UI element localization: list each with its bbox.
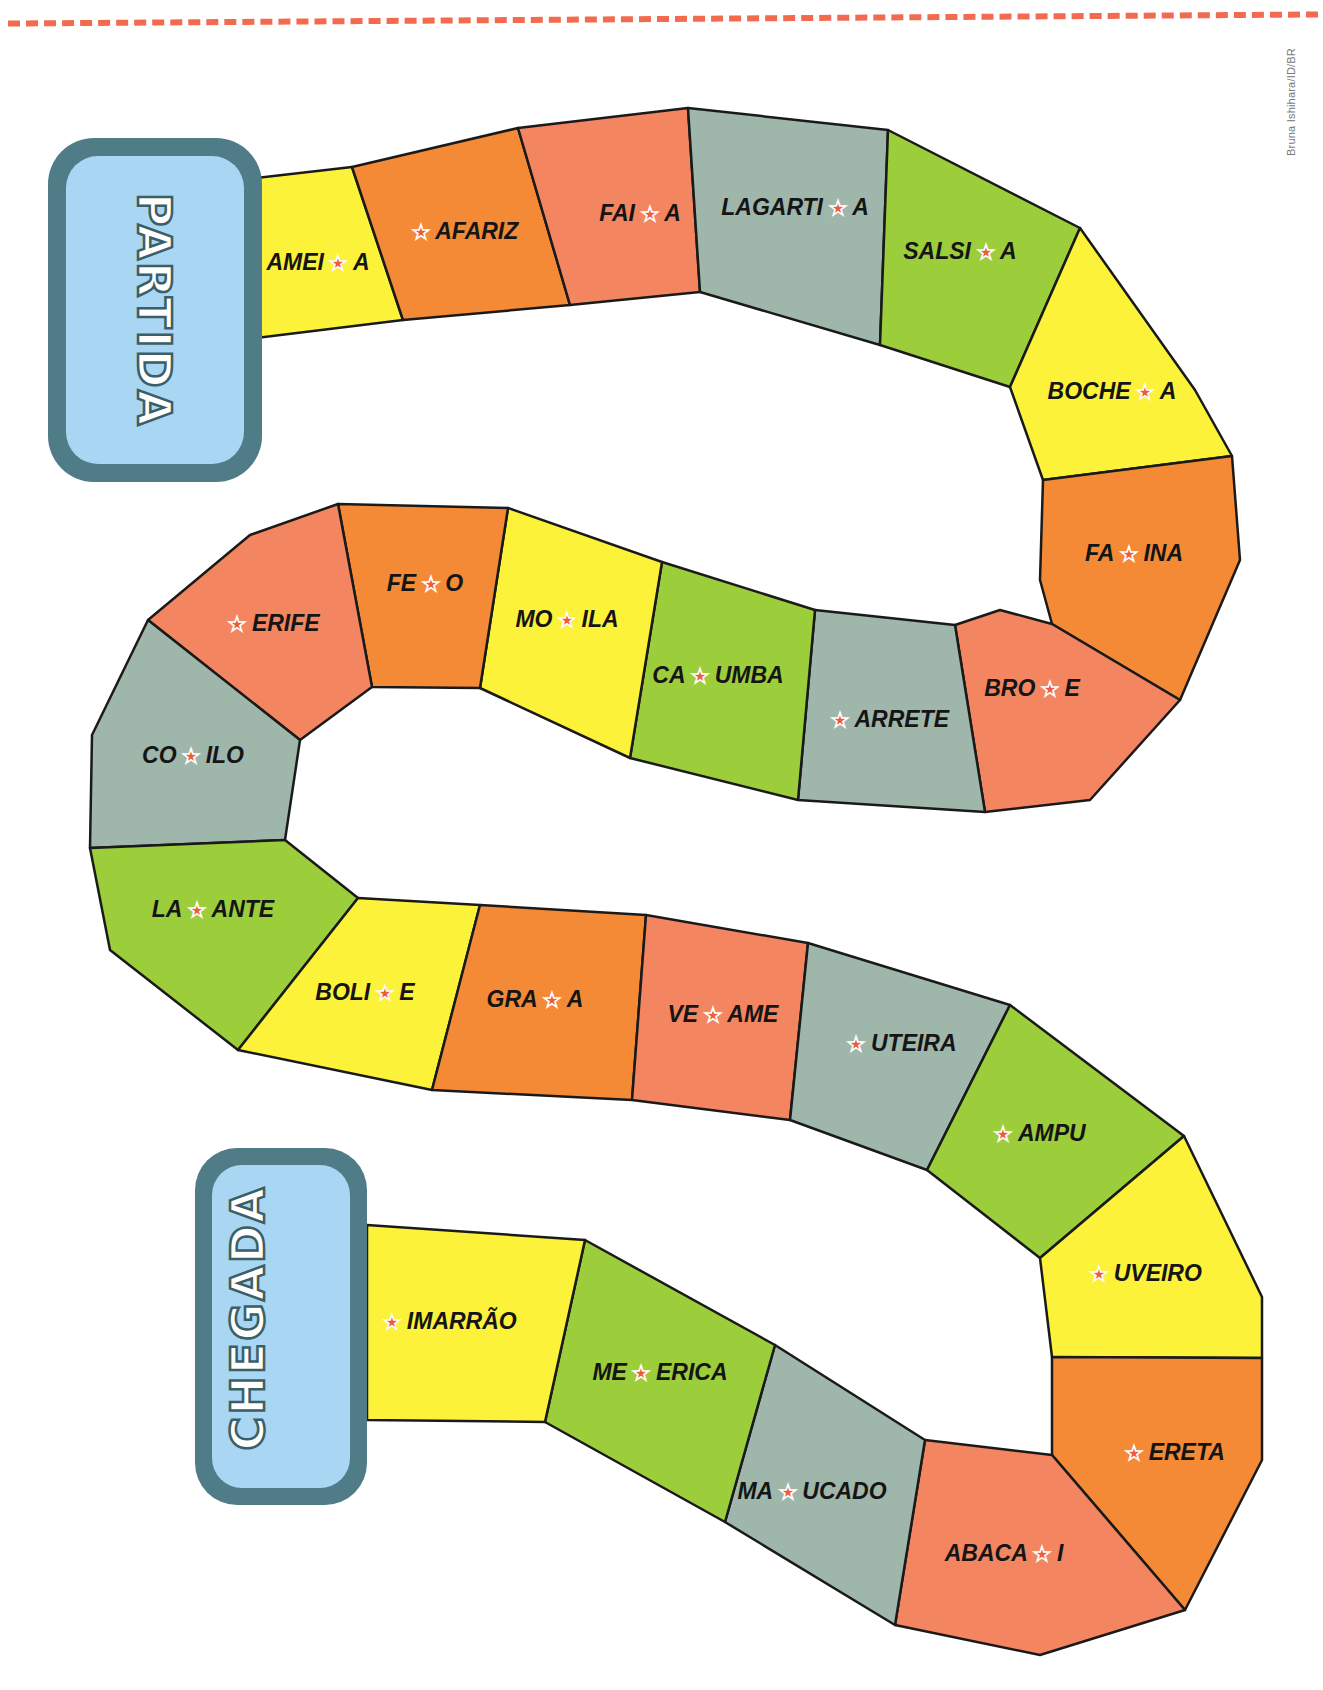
word-suffix: A: [352, 249, 370, 275]
word-prefix: FA: [1085, 540, 1114, 566]
word-prefix: BOCHE: [1048, 378, 1132, 404]
word-suffix: O: [445, 570, 463, 596]
word-prefix: SALSI: [903, 238, 971, 264]
board-square[interactable]: CA ★ UMBA: [630, 562, 815, 800]
finish-badge[interactable]: CHEGADA: [195, 1148, 367, 1505]
square-word: GRA ★ A: [487, 986, 584, 1012]
square-word: ★ UVEIRO: [1090, 1260, 1202, 1286]
start-badge[interactable]: PARTIDA: [48, 138, 262, 482]
missing-letter-star-icon: ★: [1028, 1543, 1057, 1565]
missing-letter-star-icon: ★: [412, 221, 436, 243]
square-word: ME ★ ERICA: [592, 1359, 727, 1385]
word-suffix: UCADO: [802, 1478, 886, 1504]
word-suffix: A: [999, 238, 1017, 264]
board-square[interactable]: MO ★ ILA: [480, 508, 662, 758]
word-prefix: LAGARTI: [721, 194, 823, 220]
missing-letter-star-icon: ★: [324, 252, 353, 274]
word-suffix: A: [566, 986, 584, 1012]
missing-letter-star-icon: ★: [1131, 381, 1160, 403]
word-prefix: ABACA: [944, 1540, 1028, 1566]
missing-letter-star-icon: ★: [1090, 1263, 1114, 1285]
missing-letter-star-icon: ★: [538, 989, 567, 1011]
word-suffix: ARRETE: [854, 706, 950, 732]
missing-letter-star-icon: ★: [383, 1311, 407, 1333]
missing-letter-star-icon: ★: [182, 899, 211, 921]
word-suffix: ANTE: [211, 896, 275, 922]
board-square[interactable]: LAGARTI ★ A: [688, 108, 888, 345]
square-word: BOCHE ★ A: [1048, 378, 1177, 404]
word-suffix: IMARRÃO: [407, 1307, 517, 1334]
square-word: ★ ARRETE: [831, 706, 950, 732]
word-suffix: ILO: [206, 742, 244, 768]
square-word: MO ★ ILA: [515, 606, 618, 632]
word-prefix: MO: [515, 606, 552, 632]
square-word: ★ ERIFE: [228, 610, 320, 636]
word-prefix: VE: [668, 1001, 699, 1027]
word-suffix: E: [1064, 675, 1080, 701]
missing-letter-star-icon: ★: [416, 573, 445, 595]
square-word: CO ★ ILO: [142, 742, 244, 768]
board-square[interactable]: ★ IMARRÃO: [367, 1225, 585, 1422]
square-word: ★ AMPU: [994, 1120, 1087, 1146]
missing-letter-star-icon: ★: [228, 613, 252, 635]
missing-letter-star-icon: ★: [831, 709, 855, 731]
word-suffix: ERETA: [1149, 1439, 1225, 1465]
square-word: VE ★ AME: [668, 1001, 780, 1027]
square-word: ★ ERETA: [1125, 1439, 1225, 1465]
word-suffix: ERIFE: [252, 610, 320, 636]
word-suffix: ERICA: [656, 1359, 728, 1385]
word-suffix: A: [1159, 378, 1177, 404]
word-suffix: UTEIRA: [871, 1030, 957, 1056]
missing-letter-star-icon: ★: [635, 203, 664, 225]
game-board: AMEI ★ A ★ AFARIZFAI ★ ALAGARTI ★ ASALSI…: [0, 0, 1323, 1690]
word-prefix: GRA: [487, 986, 538, 1012]
missing-letter-star-icon: ★: [552, 609, 581, 631]
word-suffix: A: [851, 194, 869, 220]
word-suffix: E: [399, 979, 415, 1005]
finish-label: CHEGADA: [221, 1186, 275, 1451]
board-square[interactable]: VE ★ AME: [632, 915, 808, 1120]
missing-letter-star-icon: ★: [177, 745, 206, 767]
word-prefix: AMEI: [265, 249, 324, 275]
word-suffix: ILA: [582, 606, 619, 632]
square-word: FAI ★ A: [599, 200, 681, 226]
board-square[interactable]: ★ ARRETE: [798, 610, 985, 812]
word-suffix: INA: [1143, 540, 1183, 566]
square-word: ABACA ★ I: [944, 1540, 1064, 1566]
missing-letter-star-icon: ★: [823, 197, 852, 219]
word-prefix: FE: [387, 570, 417, 596]
square-word: ★ IMARRÃO: [383, 1307, 517, 1334]
start-label: PARTIDA: [127, 193, 181, 428]
word-suffix: I: [1057, 1540, 1064, 1566]
square-word: FE ★ O: [387, 570, 464, 596]
word-prefix: CO: [142, 742, 177, 768]
missing-letter-star-icon: ★: [627, 1362, 656, 1384]
word-prefix: CA: [652, 662, 685, 688]
square-word: FA ★ INA: [1085, 540, 1183, 566]
square-word: LAGARTI ★ A: [721, 194, 869, 220]
word-suffix: A: [663, 200, 681, 226]
missing-letter-star-icon: ★: [1114, 543, 1143, 565]
word-suffix: AME: [726, 1001, 779, 1027]
word-suffix: UVEIRO: [1114, 1260, 1202, 1286]
square-tile: [688, 108, 888, 345]
square-word: BRO ★ E: [984, 675, 1080, 701]
missing-letter-star-icon: ★: [1035, 678, 1064, 700]
missing-letter-star-icon: ★: [1125, 1442, 1149, 1464]
word-prefix: BOLI: [315, 979, 371, 1005]
square-word: LA ★ ANTE: [152, 896, 275, 922]
missing-letter-star-icon: ★: [686, 665, 715, 687]
word-prefix: LA: [152, 896, 183, 922]
square-word: ★ AFARIZ: [412, 218, 520, 244]
word-prefix: FAI: [599, 200, 635, 226]
missing-letter-star-icon: ★: [971, 241, 1000, 263]
missing-letter-star-icon: ★: [773, 1481, 802, 1503]
word-prefix: MA: [737, 1478, 773, 1504]
word-suffix: AFARIZ: [434, 218, 519, 244]
square-tile: [480, 508, 662, 758]
word-prefix: BRO: [984, 675, 1035, 701]
square-word: MA ★ UCADO: [737, 1478, 886, 1504]
square-word: SALSI ★ A: [903, 238, 1016, 264]
word-prefix: ME: [592, 1359, 627, 1385]
missing-letter-star-icon: ★: [847, 1033, 871, 1055]
